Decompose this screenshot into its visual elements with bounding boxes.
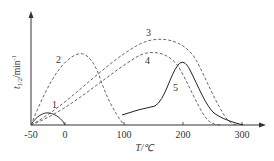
curve-label-1: 1 [52,99,57,110]
curve-3 [31,39,238,125]
curve-label-5: 5 [173,82,178,93]
y-label-unit: /min [12,60,22,78]
chart: -50 0 100 200 300 T/℃ t1/2/min-1 1 2 3 4… [0,0,274,161]
y-label-subscript: 1/2 [16,78,23,86]
tick-label: -50 [24,129,37,140]
curve-2 [31,54,124,125]
x-axis-arrow-icon [259,123,266,128]
curve-label-2: 2 [56,54,61,65]
tick-label: 0 [63,129,68,140]
y-label-superscript: -1 [10,55,17,60]
tick-label: 100 [117,129,132,140]
x-tick-labels: -50 0 100 200 300 [24,129,249,140]
curve-label-3: 3 [146,27,151,38]
tick-label: 300 [235,129,250,140]
y-axis-label: t1/2/min-1 [10,55,23,89]
tick-label: 200 [176,129,191,140]
curve-label-4: 4 [145,55,150,66]
y-axis-arrow-icon [29,11,34,18]
x-axis-label: T/℃ [136,143,156,153]
